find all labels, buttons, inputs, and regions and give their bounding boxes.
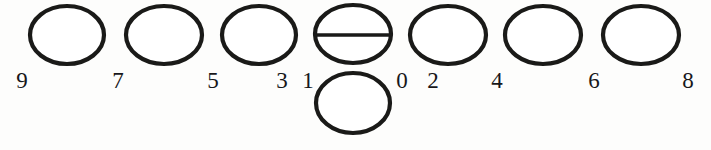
label-6: 6 xyxy=(588,69,600,92)
ellipse-7-outline xyxy=(603,6,679,64)
ellipse-1 xyxy=(30,6,104,64)
ellipse-1-outline xyxy=(30,6,104,64)
label-7: 7 xyxy=(112,69,124,92)
ellipse-3-outline xyxy=(222,6,296,64)
ellipse-5 xyxy=(410,6,486,64)
label-4: 4 xyxy=(491,69,503,92)
ellipse-diagram xyxy=(0,0,711,150)
ellipse-7 xyxy=(603,6,679,64)
label-9: 9 xyxy=(16,69,28,92)
label-1: 1 xyxy=(302,69,314,92)
ellipse-6 xyxy=(505,6,581,64)
label-2: 2 xyxy=(427,69,439,92)
ellipse-8-lower xyxy=(316,73,390,133)
ellipse-4-divided xyxy=(315,5,391,63)
ellipse-2-outline xyxy=(126,6,202,64)
ellipse-2 xyxy=(126,6,202,64)
ellipse-6-outline xyxy=(505,6,581,64)
label-8: 8 xyxy=(682,69,694,92)
figure-canvas: 9753102468 xyxy=(0,0,711,150)
label-5: 5 xyxy=(207,69,219,92)
ellipse-3 xyxy=(222,6,296,64)
ellipse-5-outline xyxy=(410,6,486,64)
label-3: 3 xyxy=(276,69,288,92)
shape-layer xyxy=(30,5,679,133)
ellipse-8-lower-outline xyxy=(316,73,390,133)
label-0: 0 xyxy=(396,69,408,92)
